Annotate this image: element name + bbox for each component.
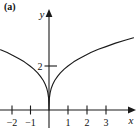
x-tick-label-1: 1 bbox=[66, 117, 71, 128]
y-tick-label-2: 2 bbox=[38, 61, 43, 72]
y-axis-title: y bbox=[39, 8, 45, 20]
x-tick-label-neg2: −2 bbox=[7, 117, 18, 128]
figure-panel: (a) −2 −1 1 2 3 2 bbox=[0, 0, 137, 134]
plot-area: −2 −1 1 2 3 2 x y bbox=[0, 0, 137, 134]
x-tick-label-3: 3 bbox=[104, 117, 109, 128]
x-axis-title: x bbox=[128, 114, 134, 126]
x-tick-label-2: 2 bbox=[85, 117, 90, 128]
curve-series-0 bbox=[1, 38, 134, 110]
x-tick-label-neg1: −1 bbox=[25, 117, 36, 128]
y-axis-arrowhead bbox=[46, 9, 53, 17]
x-axis-arrowhead bbox=[128, 107, 136, 114]
